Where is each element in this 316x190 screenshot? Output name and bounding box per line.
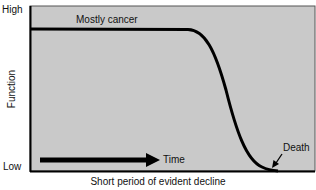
chart-plot [0,0,316,190]
y-tick-high: High [2,5,23,15]
series-label: Mostly cancer [76,15,138,25]
x-axis-title: Short period of evident decline [0,177,316,187]
time-label: Time [163,155,185,165]
death-label: Death [283,143,310,153]
y-axis-title: Function [7,69,17,109]
y-tick-low: Low [3,162,21,172]
